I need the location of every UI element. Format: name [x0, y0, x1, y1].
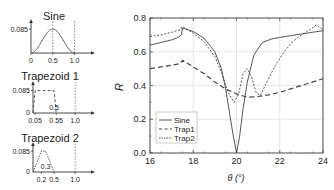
x-axis-arrow-icon [91, 51, 95, 55]
inset-title: Trapezoid 2 [21, 132, 79, 144]
inset-trapezoid-1: Trapezoid 1 0.08500.050.551.00.5 [12, 70, 95, 124]
figure: Sine 0.08500.51.0 Trapezoid 1 0.08500.05… [0, 0, 334, 190]
x-axis-arrow-icon [91, 111, 95, 115]
y-tick-label: 0.085 [12, 148, 30, 155]
width-annotation: 0.3 [41, 163, 51, 170]
x-axis-label: θ (°) [228, 173, 245, 183]
y-tick-label: 0.8 [133, 13, 146, 23]
inset-trapezoid-2: Trapezoid 2 0.08500.20.51.00.3 [12, 132, 95, 183]
y-zero-label: 0 [26, 109, 30, 116]
y-axis-arrow-icon [29, 19, 33, 23]
legend: SineTrap1Trap2 [156, 112, 197, 143]
y-tick-label: 0.6 [133, 47, 146, 57]
x-tick-label: 18 [188, 156, 198, 166]
x-tick-label: 0.5 [48, 57, 58, 64]
legend-label: Trap1 [174, 125, 195, 134]
y-tick-label: 0.4 [133, 81, 146, 91]
y-axis-label: R [113, 83, 125, 91]
inset-sine: Sine 0.08500.51.0 [10, 10, 95, 64]
x-tick-label: 1.0 [70, 176, 80, 183]
y-tick-label: 0.0 [133, 148, 146, 158]
x-tick-label: 20 [231, 156, 241, 166]
main-plot: R θ (°) 16182022240.00.20.40.60.8SineTra… [113, 13, 328, 183]
width-annotation: 0.5 [49, 104, 59, 111]
x-tick-label: 0 [29, 57, 33, 64]
y-tick-label: 0.085 [12, 87, 30, 94]
inset-title: Sine [43, 10, 65, 22]
x-tick-label: 16 [145, 156, 155, 166]
x-tick-label: 1.0 [70, 117, 80, 124]
legend-label: Trap2 [174, 134, 195, 143]
x-tick-label: 0.2 [37, 176, 47, 183]
x-tick-label: 0.5 [49, 176, 59, 183]
x-tick-label: 1.0 [70, 57, 80, 64]
x-axis-arrow-icon [91, 170, 95, 174]
y-tick-label: 0.2 [133, 114, 146, 124]
y-zero-label: 0 [26, 168, 30, 175]
legend-label: Sine [174, 116, 191, 125]
x-tick-label: 0.55 [49, 117, 63, 124]
x-tick-label: 0.05 [28, 117, 42, 124]
y-tick-label: 0.085 [10, 26, 28, 33]
inset-title: Trapezoid 1 [21, 70, 79, 82]
x-tick-label: 24 [318, 156, 328, 166]
x-tick-label: 22 [275, 156, 285, 166]
